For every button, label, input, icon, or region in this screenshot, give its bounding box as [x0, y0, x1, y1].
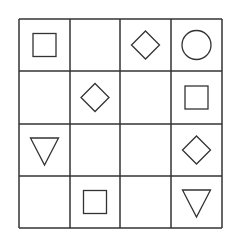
- diamond-icon: [183, 136, 211, 164]
- triangle-down-icon: [31, 138, 59, 165]
- grid-cell: [182, 31, 211, 60]
- diamond-icon: [132, 31, 160, 59]
- triangle-down-icon: [183, 190, 211, 217]
- grid-cell: [183, 136, 211, 164]
- circle-icon: [182, 31, 211, 60]
- grid-cell: [81, 84, 109, 112]
- square-icon: [33, 34, 56, 57]
- shape-grid-puzzle: [0, 0, 235, 235]
- square-icon: [84, 191, 107, 214]
- grid-cell: [84, 191, 107, 214]
- grid-cell: [132, 31, 160, 59]
- square-icon: [185, 86, 208, 109]
- grid-cell: [33, 34, 56, 57]
- grid-cell: [183, 190, 211, 217]
- diamond-icon: [81, 84, 109, 112]
- grid-cell: [31, 138, 59, 165]
- grid-cell: [185, 86, 208, 109]
